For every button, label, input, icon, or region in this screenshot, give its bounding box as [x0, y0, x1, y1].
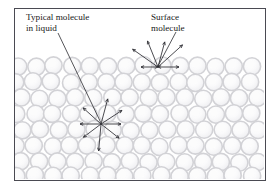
molecule: [81, 58, 98, 75]
molecule: [196, 121, 213, 138]
molecule: [243, 58, 260, 75]
molecule: [232, 121, 249, 138]
molecule: [62, 105, 79, 122]
molecule: [223, 73, 240, 90]
molecule: [158, 89, 175, 106]
molecule: [13, 89, 30, 106]
molecule: [99, 58, 116, 75]
molecule: [133, 137, 150, 154]
molecule-field: [7, 8, 267, 185]
molecule: [66, 89, 83, 106]
molecule: [187, 74, 204, 91]
molecule: [170, 137, 187, 154]
molecule: [225, 58, 242, 75]
molecule: [241, 73, 258, 90]
molecule: [115, 73, 132, 90]
molecule: [61, 137, 78, 154]
molecule: [135, 105, 152, 122]
molecule: [42, 73, 59, 90]
molecule: [187, 137, 204, 154]
molecule: [78, 137, 95, 154]
molecule: [44, 105, 61, 122]
molecule: [118, 57, 135, 74]
molecule: [249, 89, 266, 106]
figure-root: Typical molecule in liquid Surface molec…: [0, 0, 279, 189]
molecule: [241, 138, 258, 155]
molecule: [140, 89, 157, 106]
surface-molecule-label-line2: molecule: [151, 23, 185, 33]
molecule: [45, 57, 62, 74]
molecule: [224, 137, 241, 154]
molecular-diagram: Typical molecule in liquid Surface molec…: [0, 0, 279, 189]
molecule: [243, 105, 260, 122]
molecule: [195, 90, 212, 107]
molecule: [85, 89, 102, 106]
typical-molecule-label-line2: in liquid: [26, 23, 57, 33]
molecule: [25, 137, 42, 154]
molecule: [135, 57, 152, 74]
molecule: [159, 121, 176, 138]
molecule: [31, 121, 48, 138]
molecule: [177, 121, 194, 138]
molecule: [27, 105, 44, 122]
molecule: [121, 89, 138, 106]
molecule: [151, 106, 168, 123]
molecule: [189, 57, 206, 74]
molecule: [133, 74, 150, 91]
surface-molecule-label-line1: Surface: [151, 12, 179, 22]
typical-molecule-label-line1: Typical molecule: [26, 12, 89, 22]
molecule: [24, 73, 41, 90]
molecule: [116, 137, 133, 154]
molecule: [172, 57, 189, 74]
molecule: [171, 105, 188, 122]
molecule: [64, 57, 81, 74]
molecule: [212, 89, 229, 106]
molecule: [50, 121, 67, 138]
molecule: [98, 137, 115, 154]
molecule: [80, 74, 97, 91]
molecule: [207, 58, 224, 75]
molecule: [225, 105, 242, 122]
molecule: [214, 121, 231, 138]
molecule: [170, 73, 187, 90]
molecule: [117, 106, 134, 123]
molecule: [176, 89, 193, 106]
